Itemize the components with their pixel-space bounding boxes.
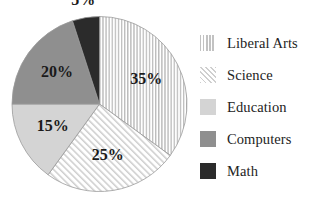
pie-data-label-science: 25% — [92, 146, 124, 163]
legend-label-computers: Computers — [227, 131, 292, 148]
legend-swatch-computers — [200, 131, 216, 147]
pie-slices-group — [12, 17, 187, 192]
legend-item-computers[interactable]: Computers — [200, 123, 332, 155]
legend-swatch-math — [200, 163, 216, 179]
pie-chart-figure: 35%25%15%20%5% Liberal Arts Science Educ… — [0, 0, 332, 202]
pie-plot-area: 35%25%15%20%5% — [0, 0, 196, 202]
pie-data-label-liberal-arts: 35% — [130, 70, 162, 87]
pie-data-label-math: 5% — [71, 0, 95, 8]
pie-data-label-education: 15% — [37, 117, 69, 134]
chart-legend: Liberal Arts Science Education Computers… — [200, 27, 332, 187]
legend-label-math: Math — [227, 163, 258, 180]
legend-item-math[interactable]: Math — [200, 155, 332, 187]
legend-swatch-education — [200, 99, 216, 115]
legend-label-education: Education — [227, 99, 287, 116]
legend-item-education[interactable]: Education — [200, 91, 332, 123]
legend-swatch-science — [200, 67, 216, 83]
pie-data-label-computers: 20% — [41, 63, 73, 80]
legend-item-science[interactable]: Science — [200, 59, 332, 91]
pie-svg: 35%25%15%20%5% — [0, 0, 196, 202]
legend-swatch-liberal-arts — [200, 35, 216, 51]
legend-label-liberal-arts: Liberal Arts — [227, 35, 298, 52]
legend-label-science: Science — [227, 67, 273, 84]
legend-item-liberal-arts[interactable]: Liberal Arts — [200, 27, 332, 59]
